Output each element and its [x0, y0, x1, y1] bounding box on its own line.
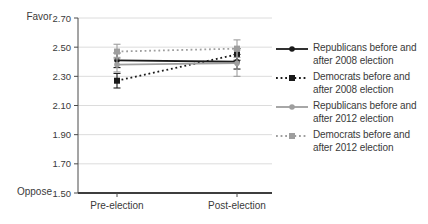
legend-swatch-square-icon	[276, 73, 308, 83]
data-point-circle	[234, 60, 240, 66]
x-category-label: Pre-election	[90, 200, 143, 211]
legend-item: Democrats before andafter 2012 election	[276, 128, 416, 154]
data-point-square	[114, 49, 120, 55]
y-axis-oppose-label: Oppose	[6, 186, 52, 197]
line-chart-figure: Favor Oppose 2.702.502.302.101.901.701.5…	[0, 0, 428, 224]
y-tick-label: 1.70	[53, 158, 72, 169]
legend-label: Republicans before andafter 2012 electio…	[313, 99, 416, 125]
legend-label: Democrats before andafter 2008 election	[313, 70, 410, 96]
legend-label: Republicans before andafter 2008 electio…	[313, 41, 416, 67]
legend-swatch-circle-icon	[276, 102, 308, 112]
legend-item: Republicans before andafter 2008 electio…	[276, 41, 416, 67]
y-axis-favor-label: Favor	[6, 11, 52, 22]
y-tick-label: 2.70	[53, 13, 72, 24]
y-tick-label: 2.50	[53, 42, 72, 53]
legend: Republicans before andafter 2008 electio…	[276, 41, 416, 154]
legend-item: Democrats before andafter 2008 election	[276, 70, 416, 96]
legend-item: Republicans before andafter 2012 electio…	[276, 99, 416, 125]
x-category-label: Post-election	[208, 200, 266, 211]
data-point-square	[114, 78, 120, 84]
y-tick-label: 2.30	[53, 71, 72, 82]
series-line	[117, 60, 237, 61]
legend-swatch-square-icon	[276, 131, 308, 141]
y-tick-label: 1.50	[53, 188, 72, 199]
y-tick-label: 1.90	[53, 129, 72, 140]
y-tick-label: 2.10	[53, 100, 72, 111]
series-line	[117, 49, 237, 52]
data-point-circle	[114, 62, 120, 68]
series-line	[117, 63, 237, 64]
data-point-square	[234, 46, 240, 52]
legend-label: Democrats before andafter 2012 election	[313, 128, 410, 154]
legend-swatch-circle-icon	[276, 44, 308, 54]
